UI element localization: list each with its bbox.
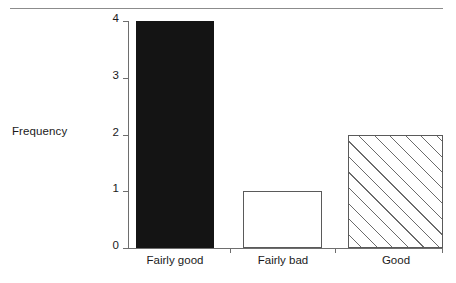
bar-good (348, 135, 443, 249)
bar-fairly-bad (243, 191, 322, 248)
plot-area: 4 3 2 1 0 (128, 21, 443, 248)
y-tick-label-0: 0 (113, 240, 119, 252)
y-tick-0: 0 (123, 248, 128, 249)
bar-fairly-good (136, 21, 214, 248)
x-axis-label-fairly-bad: Fairly bad (258, 255, 309, 267)
y-tick-1: 1 (123, 191, 128, 192)
y-tick-label-3: 3 (113, 70, 119, 82)
x-axis-label-fairly-good: Fairly good (147, 255, 204, 267)
x-tick-separator-3 (442, 248, 443, 253)
x-tick-separator-2 (335, 248, 336, 253)
y-tick-label-4: 4 (113, 13, 119, 25)
y-tick-label-2: 2 (113, 127, 119, 139)
y-axis-line (128, 21, 129, 248)
y-axis-title: Frequency (12, 125, 67, 137)
hatch-pattern-fill (348, 135, 443, 249)
bar-chart-figure: Frequency 4 3 2 1 0 Fairly good (0, 0, 456, 283)
y-tick-2: 2 (123, 135, 128, 136)
x-axis-label-good: Good (382, 255, 410, 267)
y-tick-label-1: 1 (113, 183, 119, 195)
x-tick-separator-1 (230, 248, 231, 253)
x-axis-line (128, 248, 443, 249)
y-tick-4: 4 (123, 21, 128, 22)
y-tick-3: 3 (123, 78, 128, 79)
